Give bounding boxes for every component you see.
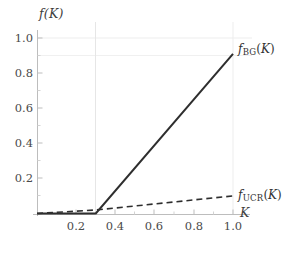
series-f-bg-solid-line <box>37 54 233 214</box>
f-bg-argument: (K) <box>256 42 274 56</box>
horizontal-gridlines <box>37 38 252 56</box>
y-tick-label-0.6: 0.6 <box>0 101 33 115</box>
series-label-f-bg: fBG(K) <box>238 42 275 57</box>
x-axis-title: K <box>240 205 250 220</box>
figure-container: f(K) K 1.0 0.8 0.6 0.4 0.2 0.2 0.4 0.6 0… <box>0 0 302 253</box>
y-tick-label-0.2: 0.2 <box>0 171 33 185</box>
vertical-gridlines <box>96 22 234 214</box>
x-tick-label-1.0: 1.0 <box>213 219 253 233</box>
plot-canvas <box>0 0 302 253</box>
x-tick-label-0.4: 0.4 <box>95 219 135 233</box>
f-bg-subscript: BG <box>242 47 256 57</box>
series-f-ucr-dashed-line <box>37 196 233 214</box>
y-tick-label-1.0: 1.0 <box>0 31 33 45</box>
y-axis <box>38 30 43 216</box>
series-label-f-ucr: fUCR(K) <box>238 188 282 203</box>
y-tick-label-0.4: 0.4 <box>0 136 33 150</box>
y-tick-label-0.8: 0.8 <box>0 66 33 80</box>
f-ucr-argument: (K) <box>263 188 281 202</box>
y-axis-title: f(K) <box>39 6 64 21</box>
x-tick-label-0.2: 0.2 <box>56 219 96 233</box>
x-tick-label-0.8: 0.8 <box>174 219 214 233</box>
x-tick-label-0.6: 0.6 <box>134 219 174 233</box>
f-ucr-subscript: UCR <box>242 193 263 203</box>
